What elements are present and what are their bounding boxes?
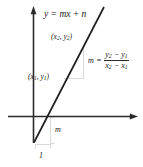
point2-label: (x2, y2) <box>51 33 72 42</box>
rise-bracket <box>51 117 55 144</box>
slope-symbol: m <box>88 57 94 65</box>
rise-label-text: m <box>55 125 61 134</box>
y-axis-arrowhead <box>31 6 37 14</box>
x-axis-arrowhead <box>130 114 138 120</box>
slope-formula: m = y2 − y1 x2 − x1 <box>88 51 129 70</box>
run-label-text: 1 <box>39 151 43 160</box>
slope-fraction: y2 − y1 x2 − x1 <box>104 51 128 70</box>
line-equation-text: y = mx + n <box>44 9 86 19</box>
point1-label: (x1, y1) <box>28 73 49 82</box>
x-axis <box>8 114 138 120</box>
slope-diagram-figure: y = mx + n (x2, y2) (x1, y1) m = y2 − y1… <box>0 0 143 167</box>
diagram-canvas <box>0 0 143 167</box>
line-equation-label: y = mx + n <box>44 10 86 20</box>
rise-label: m <box>55 126 61 134</box>
run-label: 1 <box>39 152 43 160</box>
slope-denominator: x2 − x1 <box>104 61 128 70</box>
slope-numerator: y2 − y1 <box>104 51 128 61</box>
unit-run-bracket <box>36 145 51 149</box>
equals-sign: = <box>96 57 103 65</box>
